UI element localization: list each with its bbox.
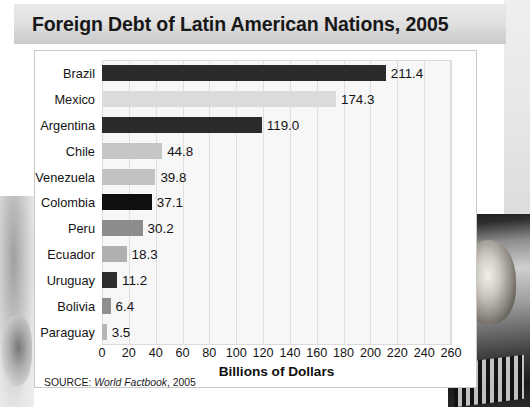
bar-chile	[102, 143, 162, 159]
source-publication: World Factbook	[94, 377, 167, 388]
x-tick-20: 20	[122, 346, 136, 360]
x-tick-260: 260	[440, 346, 461, 360]
bar-row: Chile44.8	[102, 138, 451, 164]
bar-value-brazil: 211.4	[391, 65, 424, 80]
x-tick-160: 160	[306, 346, 327, 360]
source-note: SOURCE: World Factbook, 2005	[44, 377, 196, 388]
source-prefix: SOURCE:	[44, 377, 91, 388]
bar-brazil	[102, 65, 386, 81]
background-edge-right-top	[504, 0, 530, 214]
x-tick-120: 120	[253, 346, 274, 360]
bar-colombia	[102, 194, 152, 210]
category-label-uruguay: Uruguay	[47, 273, 95, 288]
bar-bolivia	[102, 298, 111, 314]
x-tick-200: 200	[360, 346, 381, 360]
x-tick-240: 240	[414, 346, 435, 360]
category-label-mexico: Mexico	[54, 91, 95, 106]
chart-card: Brazil211.4Mexico174.3Argentina119.0Chil…	[34, 50, 477, 388]
bar-rows: Brazil211.4Mexico174.3Argentina119.0Chil…	[102, 60, 451, 345]
bar-value-colombia: 37.1	[157, 195, 183, 210]
category-label-chile: Chile	[66, 143, 95, 158]
x-tick-0: 0	[98, 346, 105, 360]
plot-wrapper: Brazil211.4Mexico174.3Argentina119.0Chil…	[35, 51, 478, 389]
bar-value-paraguay: 3.5	[112, 325, 131, 340]
chart-page: Foreign Debt of Latin American Nations, …	[0, 0, 530, 407]
bar-value-ecuador: 18.3	[132, 247, 158, 262]
x-tick-180: 180	[333, 346, 354, 360]
bar-row: Brazil211.4	[102, 60, 451, 86]
x-tick-140: 140	[279, 346, 300, 360]
bar-value-venezuela: 39.8	[160, 169, 186, 184]
gridline-260	[451, 60, 452, 345]
bar-argentina	[102, 117, 262, 133]
bar-value-bolivia: 6.4	[116, 299, 135, 314]
x-tick-100: 100	[226, 346, 247, 360]
x-tick-220: 220	[387, 346, 408, 360]
page-title: Foreign Debt of Latin American Nations, …	[32, 13, 448, 36]
bar-row: Bolivia6.4	[102, 293, 451, 319]
x-tick-60: 60	[176, 346, 190, 360]
bar-value-argentina: 119.0	[267, 117, 300, 132]
bar-value-peru: 30.2	[148, 221, 174, 236]
bar-ecuador	[102, 246, 127, 262]
bar-peru	[102, 220, 143, 236]
category-label-paraguay: Paraguay	[40, 325, 95, 340]
bar-paraguay	[102, 324, 107, 340]
bar-row: Ecuador18.3	[102, 241, 451, 267]
bar-row: Colombia37.1	[102, 190, 451, 216]
bar-value-mexico: 174.3	[341, 91, 375, 106]
category-label-peru: Peru	[68, 221, 95, 236]
category-label-argentina: Argentina	[40, 117, 95, 132]
bar-row: Peru30.2	[102, 215, 451, 241]
bar-row: Paraguay3.5	[102, 319, 451, 345]
x-tick-40: 40	[149, 346, 163, 360]
bar-venezuela	[102, 169, 155, 185]
source-suffix: , 2005	[167, 377, 196, 388]
category-label-ecuador: Ecuador	[47, 247, 95, 262]
bar-row: Uruguay11.2	[102, 267, 451, 293]
category-label-bolivia: Bolivia	[57, 299, 95, 314]
x-axis-ticks: 020406080100120140160180200220240260	[102, 346, 451, 366]
title-band: Foreign Debt of Latin American Nations, …	[14, 4, 506, 44]
bar-value-uruguay: 11.2	[122, 273, 147, 288]
category-label-venezuela: Venezuela	[35, 169, 95, 184]
bar-row: Argentina119.0	[102, 112, 451, 138]
bar-value-chile: 44.8	[167, 143, 193, 158]
x-tick-80: 80	[202, 346, 216, 360]
category-label-brazil: Brazil	[63, 65, 95, 80]
bar-row: Venezuela39.8	[102, 164, 451, 190]
bar-row: Mexico174.3	[102, 86, 451, 112]
category-label-colombia: Colombia	[41, 195, 95, 210]
bar-mexico	[102, 91, 336, 107]
background-banknote-photo-left	[0, 196, 34, 407]
bar-uruguay	[102, 272, 117, 288]
